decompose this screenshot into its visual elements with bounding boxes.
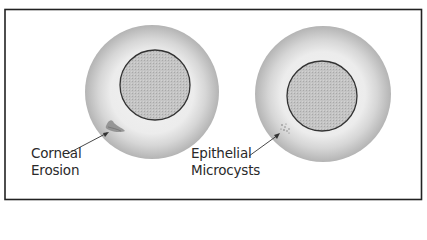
right-pupil [287, 61, 357, 131]
left-pupil [120, 50, 190, 120]
label-line: Microcysts [191, 162, 260, 179]
label-line: Erosion [31, 162, 81, 179]
label-line: Corneal [31, 145, 81, 162]
label-line: Epithelial [191, 145, 260, 162]
corneal-erosion-label: Corneal Erosion [31, 145, 81, 179]
epithelial-microcysts-label: Epithelial Microcysts [191, 145, 260, 179]
